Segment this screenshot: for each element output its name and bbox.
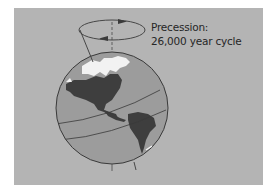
globe (56, 52, 168, 164)
label-line-2: 26,000 year cycle (151, 34, 242, 48)
arrow-right-icon (118, 19, 127, 24)
tilted-axis-top (80, 30, 93, 62)
tilted-axis-bottom (134, 162, 136, 170)
label-line-1: Precession: (151, 20, 242, 34)
arrow-left-icon (99, 36, 108, 41)
precession-label: Precession: 26,000 year cycle (151, 20, 242, 48)
